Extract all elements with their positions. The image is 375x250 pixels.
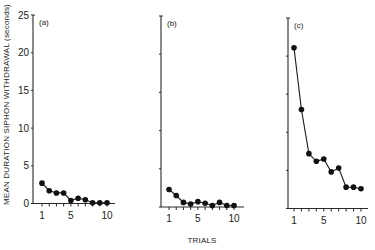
data-point (343, 184, 349, 190)
x-tick-label: 1 (39, 210, 45, 221)
data-point (46, 188, 52, 194)
x-tick-label: 10 (101, 210, 113, 221)
data-line (169, 189, 234, 205)
y-tick-label: 5 (23, 160, 29, 171)
x-axis-title: TRIALS (187, 236, 216, 245)
y-tick-label: 20 (18, 47, 30, 58)
x-tick-label: 10 (355, 215, 367, 226)
data-point (321, 156, 327, 162)
data-point (336, 165, 342, 171)
x-tick-label: 5 (195, 213, 201, 224)
data-point (83, 197, 89, 203)
data-line (42, 183, 107, 203)
y-axis-title: MEAN DURATION SIPHON WITHDRAWAL (seconds… (2, 4, 11, 205)
axis-lines (288, 18, 368, 209)
data-point (173, 193, 179, 199)
data-point (75, 195, 81, 201)
data-point (202, 200, 208, 206)
data-point (97, 200, 103, 206)
data-point (314, 158, 320, 164)
panel-a: 05101520251510(a) (18, 10, 115, 221)
panel-c: 1510(c) (286, 18, 368, 226)
data-point (61, 190, 67, 196)
data-point (231, 203, 237, 209)
y-tick-label: 10 (18, 123, 30, 134)
data-point (210, 203, 216, 209)
panel-label: (c) (294, 21, 304, 30)
data-point (166, 187, 172, 193)
y-tick-label: 0 (23, 198, 29, 209)
data-point (351, 184, 357, 190)
data-point (291, 45, 297, 51)
data-point (224, 203, 230, 209)
data-point (90, 200, 96, 206)
data-point (188, 201, 194, 207)
data-point (181, 200, 187, 206)
data-point (39, 180, 45, 186)
data-point (217, 200, 223, 206)
data-line (294, 48, 361, 189)
axis-lines (33, 15, 115, 204)
panel-b: 1510(b) (159, 16, 244, 224)
data-point (68, 198, 74, 204)
y-tick-label: 15 (18, 85, 30, 96)
data-point (328, 169, 334, 175)
data-point (306, 151, 312, 157)
data-point (54, 190, 60, 196)
x-tick-label: 5 (321, 215, 327, 226)
data-point (299, 107, 305, 113)
y-tick-label: 25 (18, 10, 30, 21)
data-point (358, 186, 364, 192)
x-tick-label: 5 (68, 210, 74, 221)
axis-lines (161, 16, 244, 207)
figure: MEAN DURATION SIPHON WITHDRAWAL (seconds… (0, 0, 375, 250)
data-point (195, 199, 201, 205)
x-tick-label: 1 (291, 215, 297, 226)
x-tick-label: 10 (228, 213, 240, 224)
panel-label: (a) (39, 18, 49, 27)
panel-label: (b) (167, 19, 177, 28)
data-point (104, 200, 110, 206)
x-tick-label: 1 (166, 213, 172, 224)
